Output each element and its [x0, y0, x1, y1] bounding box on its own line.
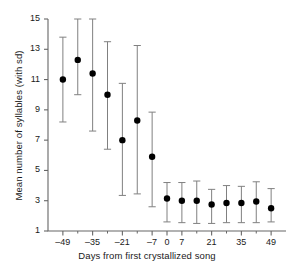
data-point	[253, 198, 259, 204]
data-point	[104, 92, 110, 98]
x-axis-tick-label: –21	[109, 237, 135, 247]
data-point	[194, 198, 200, 204]
data-point	[164, 195, 170, 201]
data-point	[75, 57, 81, 63]
data-point	[119, 137, 125, 143]
x-axis-tick-label: –49	[50, 237, 76, 247]
data-point	[89, 70, 95, 76]
y-axis-tick-label: 1	[18, 225, 40, 235]
y-axis-tick-label: 9	[18, 104, 40, 114]
x-axis-tick-label: 21	[199, 237, 225, 247]
x-axis-tick-label: –35	[80, 237, 106, 247]
data-point	[149, 154, 155, 160]
y-axis-tick-label: 13	[18, 43, 40, 53]
y-axis-tick-label: 15	[18, 13, 40, 23]
data-point	[134, 117, 140, 123]
data-point	[208, 201, 214, 207]
error-bar	[163, 183, 170, 222]
data-point	[179, 198, 185, 204]
data-point	[223, 200, 229, 206]
data-point	[268, 205, 274, 211]
y-axis-tick-label: 11	[18, 74, 40, 84]
scatter-plot-svg	[0, 0, 294, 273]
data-point	[60, 76, 66, 82]
y-axis-tick-label: 7	[18, 134, 40, 144]
chart-figure: Mean number of syllables (with sd) Days …	[0, 0, 294, 273]
x-axis-title: Days from first crystallized song	[0, 250, 294, 261]
x-axis-tick-label: 49	[258, 237, 284, 247]
x-axis-tick-label: 35	[228, 237, 254, 247]
data-series	[59, 19, 274, 223]
y-axis-tick-label: 5	[18, 164, 40, 174]
y-axis-tick-label: 3	[18, 195, 40, 205]
x-axis-tick-label: 7	[169, 237, 195, 247]
data-point	[238, 200, 244, 206]
